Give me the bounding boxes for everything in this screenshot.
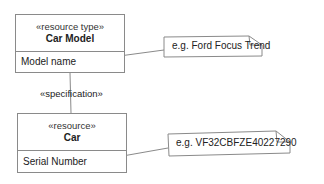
note-model-example: e.g. Ford Focus Trend: [172, 40, 270, 51]
class-header: «resource type» Car Model: [16, 15, 124, 52]
class-header: «resource» Car: [18, 114, 126, 151]
association-label: «specification»: [40, 88, 103, 99]
attribute-model-name: Model name: [21, 56, 76, 67]
stereotype-label: «resource»: [18, 120, 126, 131]
note-serial-example: e.g. VF32CBFZE40227290: [176, 137, 297, 148]
class-car[interactable]: «resource» Car Serial Number: [17, 113, 127, 173]
class-name: Car Model: [16, 33, 124, 44]
attribute-serial-number: Serial Number: [23, 156, 87, 167]
stereotype-label: «resource type»: [16, 21, 124, 32]
class-name: Car: [18, 132, 126, 143]
class-car-model[interactable]: «resource type» Car Model Model name: [15, 14, 125, 73]
